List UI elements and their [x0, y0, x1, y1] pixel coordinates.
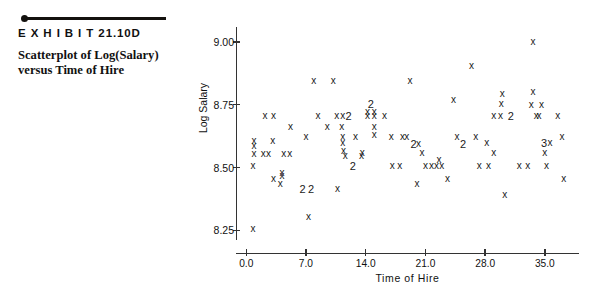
- data-point: x: [335, 184, 340, 194]
- data-point: x: [559, 132, 564, 142]
- x-tick: [365, 249, 366, 256]
- data-point: x: [382, 111, 387, 121]
- data-point: x: [311, 76, 316, 86]
- data-point: x: [389, 132, 394, 142]
- y-tick: [233, 41, 240, 42]
- x-tick-label: 14.0: [356, 258, 376, 269]
- x-axis-title: Time of Hire: [236, 272, 579, 284]
- x-tick: [425, 249, 426, 256]
- y-tick-label: 8.25: [214, 224, 234, 236]
- x-axis-line: [236, 253, 579, 254]
- data-point: x: [281, 149, 286, 159]
- data-point-cluster: 2: [508, 111, 514, 121]
- x-tick: [305, 249, 306, 256]
- data-point: x: [251, 224, 256, 234]
- data-point: x: [547, 138, 552, 148]
- data-point-cluster: 2: [350, 161, 356, 171]
- data-point: x: [315, 111, 320, 121]
- data-point: x: [331, 76, 336, 86]
- data-point-cluster: 2: [299, 184, 305, 194]
- data-point: x: [517, 161, 522, 171]
- data-point: x: [529, 100, 534, 110]
- data-point: x: [491, 148, 496, 158]
- y-tick-label: 8.75: [214, 99, 234, 111]
- data-point: x: [343, 151, 348, 161]
- data-point: x: [303, 132, 308, 142]
- y-tick: [233, 167, 240, 168]
- y-tick-label: 8.50: [214, 162, 234, 174]
- data-point: x: [397, 161, 402, 171]
- data-point: x: [473, 132, 478, 142]
- data-point: x: [539, 100, 544, 110]
- data-point: x: [499, 99, 504, 109]
- data-point: x: [372, 111, 377, 121]
- data-point: x: [469, 61, 474, 71]
- data-point: x: [544, 161, 549, 171]
- data-point: x: [486, 161, 491, 171]
- data-point: x: [271, 111, 276, 121]
- data-point: x: [288, 122, 293, 132]
- data-point: x: [340, 111, 345, 121]
- x-tick: [544, 249, 545, 256]
- x-tick-label: 35.0: [535, 258, 555, 269]
- data-point: x: [525, 161, 530, 171]
- exhibit-rule: [18, 14, 166, 24]
- data-point: x: [372, 130, 377, 140]
- data-point-cluster: 2: [308, 184, 314, 194]
- data-point: x: [251, 161, 256, 171]
- data-point: x: [500, 89, 505, 99]
- data-point-cluster: 2: [460, 139, 466, 149]
- data-point: x: [251, 136, 256, 146]
- data-point: x: [420, 148, 425, 158]
- x-tick-label: 7.0: [299, 258, 313, 269]
- divider: [25, 17, 166, 20]
- exhibit-figure: E X H I B I T 21.10D Scatterplot of Log(…: [0, 0, 592, 293]
- x-tick-label: 28.0: [475, 258, 495, 269]
- data-point: x: [408, 76, 413, 86]
- data-point: x: [404, 132, 409, 142]
- data-point: x: [561, 174, 566, 184]
- data-point: x: [530, 37, 535, 47]
- data-point: x: [334, 111, 339, 121]
- data-point: x: [270, 136, 275, 146]
- data-point: x: [542, 148, 547, 158]
- data-point: x: [445, 174, 450, 184]
- data-point: x: [451, 95, 456, 105]
- x-tick-label: 21.0: [415, 258, 435, 269]
- data-point: x: [414, 179, 419, 189]
- y-tick: [233, 230, 240, 231]
- data-point: x: [271, 174, 276, 184]
- data-point: x: [280, 168, 285, 178]
- exhibit-description: Scatterplot of Log(Salary) versus Time o…: [18, 48, 178, 78]
- y-tick-label: 9.00: [214, 36, 234, 48]
- y-axis-line: [236, 27, 237, 240]
- exhibit-label: E X H I B I T 21.10D: [18, 27, 178, 39]
- data-point: x: [306, 212, 311, 222]
- data-point: x: [325, 122, 330, 132]
- scatterplot: 8.258.508.759.00 0.07.014.021.028.035.0 …: [182, 6, 586, 288]
- data-point: x: [263, 111, 268, 121]
- x-tick-label: 0.0: [239, 258, 253, 269]
- data-point: x: [498, 111, 503, 121]
- y-axis-title: Log Salary: [197, 63, 209, 153]
- y-tick: [233, 104, 240, 105]
- x-tick: [246, 249, 247, 256]
- data-point: x: [477, 161, 482, 171]
- data-point: x: [390, 161, 395, 171]
- data-point: x: [287, 149, 292, 159]
- data-point: x: [555, 111, 560, 121]
- data-point: x: [353, 132, 358, 142]
- data-point-cluster: 2: [346, 111, 352, 121]
- data-point: x: [484, 138, 489, 148]
- data-point: x: [454, 132, 459, 142]
- x-tick: [484, 249, 485, 256]
- data-point: x: [359, 151, 364, 161]
- data-point: x: [491, 111, 496, 121]
- data-point: x: [437, 155, 442, 165]
- data-point: x: [365, 111, 370, 121]
- exhibit-caption-block: E X H I B I T 21.10D Scatterplot of Log(…: [18, 14, 178, 78]
- data-point: x: [423, 161, 428, 171]
- data-point: x: [502, 190, 507, 200]
- data-point: x: [266, 149, 271, 159]
- data-point: x: [530, 87, 535, 97]
